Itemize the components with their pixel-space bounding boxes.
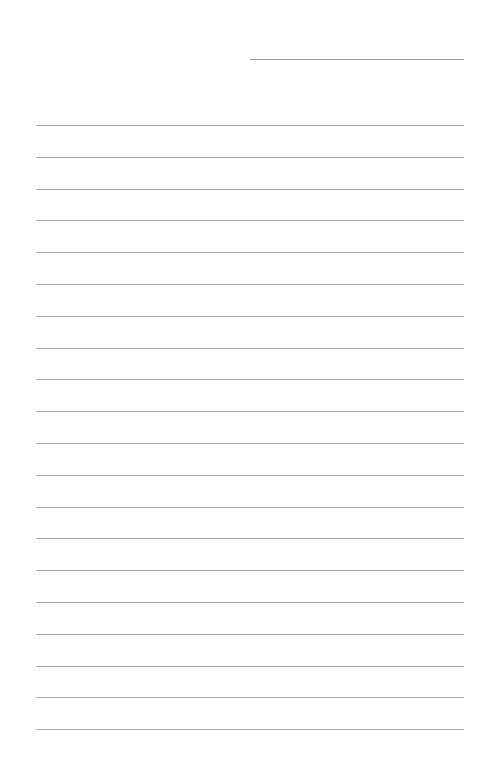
ruled-line — [36, 729, 464, 730]
ruled-line — [36, 220, 464, 221]
ruled-line — [36, 538, 464, 539]
ruled-line — [36, 125, 464, 126]
ruled-line — [36, 284, 464, 285]
ruled-line — [36, 602, 464, 603]
ruled-line — [36, 634, 464, 635]
ruled-line — [36, 697, 464, 698]
ruled-line — [36, 475, 464, 476]
ruled-line — [36, 379, 464, 380]
ruled-line — [36, 348, 464, 349]
ruled-line — [36, 666, 464, 667]
ruled-line — [36, 443, 464, 444]
ruled-line — [36, 157, 464, 158]
header-name-line — [250, 59, 464, 60]
lined-page — [0, 0, 484, 783]
ruled-line — [36, 252, 464, 253]
ruled-line — [36, 570, 464, 571]
ruled-line — [36, 411, 464, 412]
ruled-line — [36, 316, 464, 317]
ruled-line — [36, 507, 464, 508]
ruled-line — [36, 189, 464, 190]
